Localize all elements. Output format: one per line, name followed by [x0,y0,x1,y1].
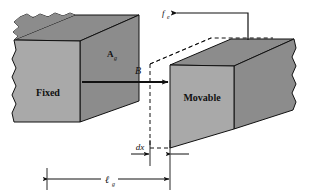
movable-block: Movable [170,39,296,148]
gap-length-subscript: g [112,181,115,187]
diagram-svg: Fixed A g Movable [0,0,316,196]
fixed-block: Fixed [12,13,139,122]
force-subscript: e [167,14,170,20]
dx-label: dx [136,142,145,152]
gap-area-symbol: A [107,49,114,59]
fixed-block-label: Fixed [36,87,60,98]
gap-length-dimension-group: ℓ g [47,166,170,190]
gap-length-symbol: ℓ [105,174,109,185]
movable-block-front-face [170,65,234,148]
gap-area-subscript: g [114,55,117,61]
figure-canvas: Fixed A g Movable [0,0,316,196]
force-arrow-line [177,13,248,40]
force-symbol: f [162,8,166,18]
flux-density-label: B [135,65,141,76]
fixed-block-front-face [12,40,80,122]
movable-block-label: Movable [183,92,221,103]
force-arrow-group: f e [162,8,248,40]
